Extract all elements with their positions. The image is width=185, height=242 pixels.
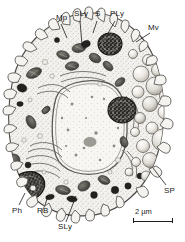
label-sly-bottom: SLy <box>58 223 72 231</box>
scale-bar-label: 2 µm <box>135 208 152 216</box>
primary-lysosome <box>98 33 122 55</box>
scale-bar-line <box>133 221 173 222</box>
label-ply: PLy <box>110 10 124 18</box>
label-s: S <box>95 10 101 18</box>
cell-micrograph-figure: Mp SLy S PLy Mv SP Ph RB SLy 2 µm <box>0 0 185 242</box>
scale-bar-cap-right <box>172 218 173 223</box>
label-rb: RB <box>37 207 49 215</box>
scale-bar-cap-left <box>133 218 134 223</box>
label-sp: SP <box>164 187 175 195</box>
label-mp: Mp <box>56 14 68 22</box>
label-mv: Mv <box>148 24 159 32</box>
label-sly-top: SLy <box>74 10 88 18</box>
cell-drawing <box>0 0 185 242</box>
label-ph: Ph <box>12 207 22 215</box>
nucleolus <box>84 137 97 147</box>
phagolysosome-mid <box>108 97 136 123</box>
